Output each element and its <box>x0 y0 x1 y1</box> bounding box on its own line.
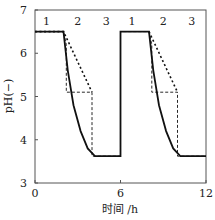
phase-label: 3 <box>103 15 110 28</box>
y-axis-label: pH(−) <box>2 79 15 113</box>
x-tick-label: 12 <box>199 187 213 200</box>
phase-label: 1 <box>128 15 135 28</box>
y-tick-label: 6 <box>20 47 27 60</box>
y-tick-label: 5 <box>20 91 27 104</box>
x-tick-label: 6 <box>117 187 124 200</box>
chart: 345670612123123 时间 /h pH(−) <box>0 0 215 220</box>
phase-label: 2 <box>74 15 81 28</box>
axes: 345670612123123 <box>20 4 213 200</box>
y-tick-label: 3 <box>20 177 27 190</box>
y-tick-label: 4 <box>20 134 27 147</box>
y-tick-label: 7 <box>20 4 27 17</box>
phase-label: 1 <box>43 15 50 28</box>
phase-label: 3 <box>188 15 195 28</box>
x-axis-label: 时间 /h <box>102 203 138 216</box>
plot-area <box>35 32 206 157</box>
phase-label: 2 <box>160 15 167 28</box>
x-tick-label: 0 <box>32 187 39 200</box>
